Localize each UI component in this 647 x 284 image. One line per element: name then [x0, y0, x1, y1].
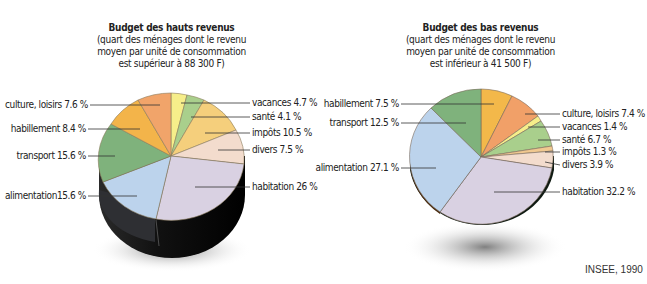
left-chart-title-block: Budget des hauts revenus (quart des ména… — [84, 22, 259, 70]
left-chart-title: Budget des hauts revenus — [84, 22, 259, 34]
left-label-alimentation: alimentation15.6 % — [5, 190, 86, 201]
left-label-divers: divers 7.5 % — [252, 144, 303, 155]
right-label-habitation: habitation 32.2 % — [562, 186, 635, 197]
left-label-habillement: habillement 8.4 % — [11, 123, 86, 134]
right-pie — [401, 89, 567, 272]
left-pie — [88, 93, 252, 272]
left-label-habitation: habitation 26 % — [252, 181, 317, 192]
right-label-divers: divers 3.9 % — [562, 159, 613, 170]
left-chart-subtitle-line3: est supérieur à 88 300 F) — [84, 58, 259, 70]
right-pie-shadow — [403, 222, 567, 272]
left-chart-subtitle-line2: moyen par unité de consommation — [84, 46, 259, 58]
source-note: INSEE, 1990 — [585, 264, 643, 275]
left-label-culture: culture, loisirs 7.6 % — [5, 99, 88, 110]
right-label-vacances: vacances 1.4 % — [562, 121, 627, 132]
right-chart-title: Budget des bas revenus — [393, 22, 568, 34]
left-label-transport: transport 15.6 % — [17, 150, 86, 161]
right-label-transport: transport 12.5 % — [330, 117, 399, 128]
right-chart-subtitle-line1: (quart des ménages dont le revenu — [393, 34, 568, 46]
left-label-impots: impôts 10.5 % — [252, 127, 312, 138]
left-label-sante: santé 4.1 % — [252, 111, 301, 122]
right-label-habillement: habillement 7.5 % — [324, 98, 399, 109]
right-label-culture: culture, loisirs 7.4 % — [562, 108, 645, 119]
right-label-alimentation: alimentation 27.1 % — [316, 162, 399, 173]
right-label-impots: impôts 1.3 % — [562, 146, 616, 157]
right-chart-subtitle-line3: est inférieur à 41 500 F) — [393, 58, 568, 70]
right-chart-title-block: Budget des bas revenus (quart des ménage… — [393, 22, 568, 70]
right-chart-subtitle-line2: moyen par unité de consommation — [393, 46, 568, 58]
right-label-sante: santé 6.7 % — [562, 134, 611, 145]
left-label-vacances: vacances 4.7 % — [252, 97, 317, 108]
left-chart-subtitle-line1: (quart des ménages dont le revenu — [84, 34, 259, 46]
